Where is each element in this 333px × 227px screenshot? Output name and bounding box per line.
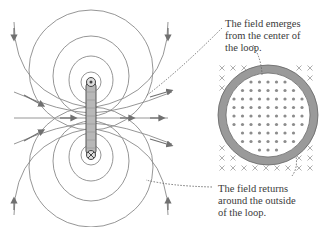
- current-loop-side-view: [86, 78, 96, 160]
- label-field-returns: The field returns around the outside of …: [218, 183, 296, 219]
- field-out-of-page-dots: [232, 80, 303, 151]
- label-field-emerges: The field emerges from the center of the…: [225, 18, 301, 54]
